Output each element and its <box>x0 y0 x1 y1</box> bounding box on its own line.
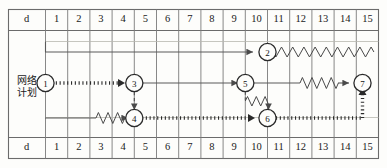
footer-cell-11: 11 <box>268 142 290 153</box>
node-label-4: 4 <box>126 115 143 124</box>
body-inner-rules <box>46 42 379 118</box>
footer-cell-7: 7 <box>179 142 201 153</box>
header-cell-5: 5 <box>134 14 156 25</box>
footer-cell-15: 15 <box>356 142 378 153</box>
footer-cell-3: 3 <box>90 142 112 153</box>
footer-cell-5: 5 <box>134 142 156 153</box>
edge-1-to-4 <box>46 113 129 124</box>
footer-cell-2: 2 <box>68 142 90 153</box>
network-schedule-figure: d 1 2 3 4 5 6 7 8 9 10 11 12 13 14 15 d … <box>0 0 387 168</box>
edge-1-to-3-critical <box>52 79 125 87</box>
header-cell-9: 9 <box>223 14 245 25</box>
node-label-7: 7 <box>354 80 371 89</box>
footer-cell-12: 12 <box>290 142 312 153</box>
edge-2-float-wavy <box>268 47 379 57</box>
header-cell-11: 11 <box>268 14 290 25</box>
footer-cell-6: 6 <box>157 142 179 153</box>
node-label-2: 2 <box>259 49 276 58</box>
footer-cell-1: 1 <box>46 142 68 153</box>
header-cell-10: 10 <box>245 14 267 25</box>
footer-cell-14: 14 <box>334 142 356 153</box>
header-cell-14: 14 <box>334 14 356 25</box>
node-label-6: 6 <box>259 115 276 124</box>
row-title-line2: 计划 <box>8 87 45 100</box>
node-label-3: 3 <box>126 80 143 89</box>
header-cell-4: 4 <box>112 14 134 25</box>
header-cell-13: 13 <box>312 14 334 25</box>
header-cell-3: 3 <box>90 14 112 25</box>
header-cell-1: 1 <box>46 14 68 25</box>
footer-cell-4: 4 <box>112 142 134 153</box>
footer-cell-d: d <box>8 142 45 153</box>
header-cell-12: 12 <box>290 14 312 25</box>
edge-1-to-2 <box>46 42 254 53</box>
header-cell-15: 15 <box>356 14 378 25</box>
footer-cell-8: 8 <box>201 142 223 153</box>
header-cell-8: 8 <box>201 14 223 25</box>
header-cell-d: d <box>8 14 45 25</box>
node-label-5: 5 <box>237 80 254 89</box>
edge-5-to-6-dashed-wavy <box>245 92 268 110</box>
header-cell-2: 2 <box>68 14 90 25</box>
node-label-1: 1 <box>37 80 54 89</box>
footer-cell-9: 9 <box>223 142 245 153</box>
footer-cell-13: 13 <box>312 142 334 153</box>
header-cell-6: 6 <box>157 14 179 25</box>
footer-cell-10: 10 <box>245 142 267 153</box>
edge-4-to-6-critical <box>142 114 255 122</box>
header-cell-7: 7 <box>179 14 201 25</box>
